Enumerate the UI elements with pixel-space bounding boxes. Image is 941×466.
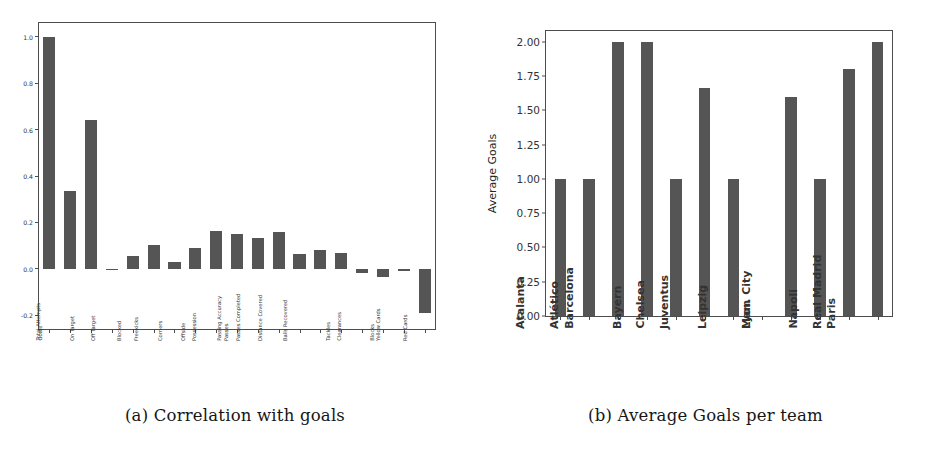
x-tick-label: Freekicks [133,317,139,341]
y-tick-label: 0.0 [23,265,39,272]
bar [127,256,139,268]
y-tick-mark [35,129,39,130]
plot-b-bars [546,31,892,316]
x-tick-label: Man. City [740,271,753,329]
subfigure-a: 1.00.80.60.40.20.0-0.2 GoalsTotal Attemp… [0,0,470,466]
x-tick-mark [279,329,280,333]
bar [43,37,55,269]
bar [872,42,884,316]
figure-two-subplots: 1.00.80.60.40.20.0-0.2 GoalsTotal Attemp… [0,0,941,466]
bar [377,269,389,277]
x-tick-mark [300,329,301,333]
subfigure-b: 2.001.751.501.251.000.750.500.250.00 Ata… [470,0,941,466]
x-tick-mark [362,329,363,333]
y-tick-label: 0.6 [23,126,39,133]
x-tick-mark [647,316,648,320]
x-tick-label: Passing Accuracy [216,296,222,341]
x-tick-label: Tackles [325,322,331,341]
bar [583,179,595,316]
bar [64,191,76,269]
y-tick-mark [542,247,546,248]
x-tick-label: Bayern [610,286,623,329]
y-tick-label: 0.8 [23,80,39,87]
x-tick-label: Blocks [369,324,375,341]
y-tick-label: 2.00 [517,36,546,48]
bar [293,254,305,269]
x-tick-label: Corners [157,321,163,341]
x-tick-label: Yellow Cards [375,309,381,341]
x-tick-label: Blocked [116,321,122,341]
x-tick-mark [154,329,155,333]
y-tick-label: 1.50 [517,104,546,116]
y-tick-mark [542,144,546,145]
y-tick-mark [542,41,546,42]
x-tick-label: Barcelona [563,267,576,329]
x-tick-mark [49,329,50,333]
y-tick-label: 0.2 [23,219,39,226]
y-tick-mark [542,76,546,77]
bar [106,269,118,271]
y-tick-label: 0.4 [23,173,39,180]
plot-a-bars [39,23,435,329]
x-tick-label: Total Attempts [35,303,41,341]
x-tick-mark [676,316,677,320]
bar [419,269,431,313]
x-tick-label: Napoli [786,289,799,329]
x-tick-label: Atlético [548,281,561,329]
x-tick-mark [425,329,426,333]
x-tick-mark [589,316,590,320]
x-tick-label: Paris [824,298,837,329]
plot-a-correlation-with-goals: 1.00.80.60.40.20.0-0.2 GoalsTotal Attemp… [38,22,436,330]
bar [314,250,326,268]
x-tick-mark [849,316,850,320]
bar [335,253,347,268]
bar [728,179,740,316]
bar [670,179,682,316]
y-tick-mark [35,176,39,177]
x-tick-label: Distance Covered [257,295,263,341]
x-tick-mark [320,329,321,333]
x-tick-mark [174,329,175,333]
bar [641,42,653,316]
x-tick-mark [762,316,763,320]
bar [843,69,855,316]
x-tick-label: Chelsea [633,280,646,329]
x-tick-mark [383,329,384,333]
x-tick-label: Leipzig [696,285,709,329]
y-tick-mark [35,36,39,37]
x-tick-label: Atalanta [514,276,527,329]
y-tick-mark [35,268,39,269]
plot-b-average-goals-per-team: 2.001.751.501.251.000.750.500.250.00 Ata… [545,30,893,317]
x-tick-label: Possession [191,313,197,341]
x-tick-mark [733,316,734,320]
plot-b-area [546,31,892,316]
bar [189,248,201,269]
y-tick-label: 1.75 [517,70,546,82]
plot-b-y-axis-title: Average Goals [486,134,499,213]
y-tick-mark [35,222,39,223]
y-tick-mark [35,83,39,84]
x-tick-label: Clearances [336,312,342,341]
x-tick-label: Offside [180,323,186,341]
bar [231,234,243,269]
x-tick-mark [560,316,561,320]
bar [699,88,711,316]
bar [85,120,97,268]
bar [612,42,624,316]
y-tick-label: 1.0 [23,33,39,40]
y-tick-label: 1.00 [517,173,546,185]
bar [356,269,368,273]
x-tick-label: Juventus [657,275,670,329]
bar [785,97,797,316]
bar [168,262,180,269]
y-tick-label: 1.25 [517,139,546,151]
y-tick-mark [542,213,546,214]
bar [252,238,264,269]
caption-a: (a) Correlation with goals [0,406,470,425]
x-tick-label: Passes Completed [235,294,241,341]
caption-b: (b) Average Goals per team [470,406,941,425]
bar [148,245,160,269]
x-tick-label: Passes [223,324,229,341]
x-tick-label: Off Target [90,316,96,341]
x-tick-label: Real Madrid [810,255,823,329]
